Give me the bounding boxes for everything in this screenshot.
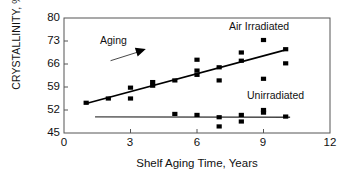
axis-ticks [64, 41, 264, 133]
aging-arrow [111, 48, 146, 61]
data-markers [84, 38, 289, 129]
plot-canvas [0, 0, 356, 177]
chart-figure: CRYSTALLINITY, % 80 73 66 59 52 45 0 3 6… [0, 0, 356, 177]
trendlines [86, 50, 290, 117]
